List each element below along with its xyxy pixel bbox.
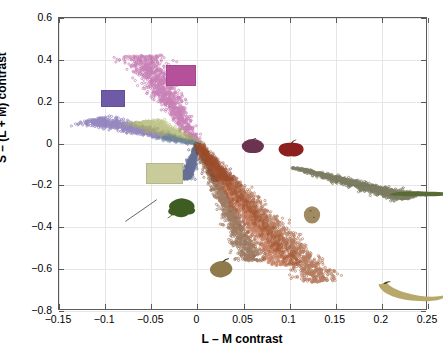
y-tick-label: 0.4	[37, 53, 52, 65]
patch-pale-yellow	[146, 163, 183, 184]
x-tick-label: 0.1	[281, 313, 296, 325]
y-axis-tick	[59, 311, 64, 312]
x-tick-label: 0.05	[232, 313, 252, 325]
y-tick-label: −0.4	[31, 220, 52, 232]
y-axis-title: S – (L + M) contrast	[0, 52, 9, 163]
thumbnail-fig-pear	[205, 257, 237, 279]
x-tick-label: 0.15	[325, 313, 345, 325]
x-tick-label: −0.05	[137, 313, 164, 325]
scatter-points	[59, 18, 426, 309]
y-tick-label: −0.8	[31, 304, 52, 316]
y-tick-label: −0.2	[31, 178, 52, 190]
x-axis-tick	[428, 304, 429, 309]
y-tick-label: −0.6	[31, 262, 52, 274]
grid-line-vertical	[428, 18, 429, 309]
thumbnail-leaf	[165, 197, 198, 219]
grid-line-horizontal	[59, 311, 426, 312]
thumbnail-potato	[300, 205, 324, 224]
leaf-pointer-line	[125, 200, 156, 222]
x-tick-label: 0	[193, 313, 199, 325]
thumbnail-apple	[275, 139, 307, 158]
y-tick-label: 0.6	[37, 11, 52, 23]
x-tick-label: −0.1	[94, 313, 115, 325]
plot-area	[58, 17, 427, 310]
patch-violet	[101, 90, 125, 107]
thumbnail-plum	[239, 138, 267, 154]
y-axis-tick	[421, 311, 426, 312]
x-tick-label: 0.25	[417, 313, 437, 325]
x-tick-label: 0.2	[374, 313, 389, 325]
figure-scatter-chromatic-contrast: −0.15−0.1−0.0500.050.10.150.20.25 −0.8−0…	[0, 0, 443, 362]
thumbnail-courgette	[386, 185, 443, 197]
y-tick-label: 0	[46, 137, 52, 149]
x-axis-title: L – M contrast	[201, 332, 282, 346]
y-tick-label: 0.2	[37, 95, 52, 107]
scatter-layer	[59, 18, 426, 309]
x-axis-tick	[428, 18, 429, 23]
thumbnail-banana	[374, 280, 443, 304]
patch-magenta	[166, 65, 196, 86]
